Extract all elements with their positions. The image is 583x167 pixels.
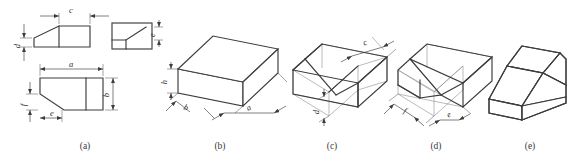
- front-view: c d: [12, 5, 109, 61]
- panel-a-orthographic-views: c d e: [12, 5, 163, 122]
- caption-d: (d): [416, 141, 456, 151]
- dim-label-c-front: c: [69, 5, 73, 15]
- dim-label-h-block: h: [159, 80, 169, 84]
- panel-e-final-solid: [489, 46, 566, 120]
- dim-label-a-top: a: [69, 59, 73, 69]
- dim-label-d-front: d: [12, 43, 22, 48]
- dim-label-f-top: f: [18, 102, 28, 106]
- engineering-figure: .obj { fill:none; stroke:#3c3c3c; stroke…: [0, 0, 583, 167]
- dim-label-e-cut: e: [445, 109, 453, 120]
- dim-label-f-cut: f: [402, 105, 410, 116]
- top-view: a b f e: [18, 59, 118, 122]
- caption-b: (b): [200, 141, 240, 151]
- dim-label-e-side: e: [147, 33, 157, 37]
- dim-label-b-top: b: [101, 93, 111, 97]
- caption-e: (e): [510, 141, 550, 151]
- dim-label-c-cut: c: [361, 37, 369, 48]
- dim-label-a-block: a: [244, 102, 252, 113]
- dim-label-e-top: e: [50, 108, 54, 118]
- panel-b-base-block: h b a: [159, 36, 287, 120]
- caption-c: (c): [312, 141, 352, 151]
- side-view: e: [112, 20, 163, 49]
- panel-d-second-cut: f e: [384, 44, 492, 126]
- caption-a: (a): [65, 141, 105, 151]
- panel-c-first-cut: c d: [293, 37, 396, 126]
